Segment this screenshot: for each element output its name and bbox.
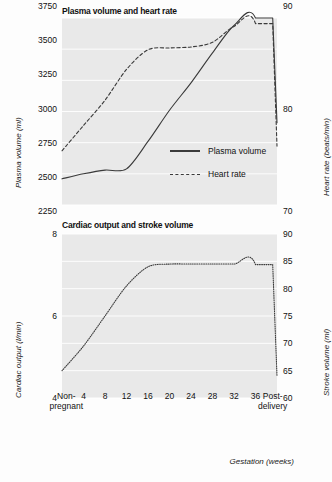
- chart-title-top: Plasma volume and heart rate: [62, 6, 177, 16]
- axis-tick-right-75: 75: [283, 311, 292, 321]
- y-axis-ticks-right-top: 908070: [280, 6, 314, 211]
- axis-tick-left-2500: 2500: [38, 172, 57, 182]
- y-axis-label-heart-rate: Heart rate (beats/min): [322, 118, 331, 196]
- axis-tick-right-70: 70: [283, 338, 292, 348]
- axis-tick-left-2750: 2750: [38, 138, 57, 148]
- y-axis-label-cardiac-output: Cardiac output (l/min): [14, 322, 23, 398]
- chart-title-bottom: Cardiac output and stroke volume: [62, 220, 193, 230]
- axis-tick-right-90: 90: [283, 229, 292, 239]
- axis-tick-left-3750: 3750: [38, 1, 57, 11]
- y-axis-ticks-left-top: 3750350032503000275025002250: [26, 6, 60, 211]
- axis-tick-right-65: 65: [283, 366, 292, 376]
- legend-item-heart-rate: Heart rate: [170, 169, 266, 179]
- legend-label-heart-rate: Heart rate: [208, 169, 246, 179]
- x-axis-tick-32: 32: [229, 392, 238, 402]
- axis-tick-right-80: 80: [283, 284, 292, 294]
- x-axis-tick-12: 12: [122, 392, 131, 402]
- axis-tick-right-90: 90: [283, 1, 292, 11]
- y-axis-ticks-left-bottom: 864: [26, 234, 60, 398]
- x-axis-tick-20: 20: [165, 392, 174, 402]
- panel-plasma-volume-heart-rate: Plasma volume and heart rate Plasma volu…: [0, 6, 332, 211]
- x-axis-tick-4: 4: [81, 392, 86, 402]
- legend-item-plasma-volume: Plasma volume: [170, 146, 266, 156]
- x-axis-tick-24: 24: [186, 392, 195, 402]
- figure-container: Plasma volume and heart rate Plasma volu…: [0, 0, 332, 482]
- panel-cardiac-output-stroke-volume: Cardiac output and stroke volume Cardiac…: [0, 220, 332, 420]
- axis-tick-left-3500: 3500: [38, 35, 57, 45]
- plot-area-bottom: [62, 234, 277, 398]
- y-axis-ticks-right-bottom: 90858075706560: [280, 234, 314, 398]
- x-axis-label-gestation: Gestation (weeks): [230, 457, 294, 466]
- axis-tick-left-3250: 3250: [38, 69, 57, 79]
- plot-svg-bottom: [62, 234, 277, 398]
- axis-tick-right-85: 85: [283, 256, 292, 266]
- legend-key-dashed-line-icon: [170, 174, 200, 175]
- x-axis-tick-8: 8: [103, 392, 108, 402]
- legend-top: Plasma volume Heart rate: [170, 146, 266, 192]
- legend-label-plasma-volume: Plasma volume: [208, 146, 266, 156]
- series-line-heart-rate: [62, 16, 277, 151]
- x-axis-tick-16: 16: [143, 392, 152, 402]
- axis-tick-left-8: 8: [52, 229, 57, 239]
- axis-tick-left-6: 6: [52, 311, 57, 321]
- x-axis-tick-28: 28: [208, 392, 217, 402]
- axis-tick-right-70: 70: [283, 206, 292, 216]
- y-axis-label-stroke-volume: Stroke volume (ml): [322, 329, 331, 396]
- x-axis-ticks: Non-pregnant4812162024283236Post-deliver…: [62, 392, 277, 422]
- legend-key-solid-line-icon: [170, 150, 200, 151]
- y-axis-label-plasma-volume: Plasma volume (ml): [14, 117, 23, 188]
- x-axis-tick-post-delivery: Post-delivery: [250, 392, 296, 411]
- axis-tick-right-80: 80: [283, 104, 292, 114]
- series-line-cardiac-output-stroke-volume: [62, 257, 277, 376]
- axis-tick-left-3000: 3000: [38, 104, 57, 114]
- axis-tick-left-2250: 2250: [38, 206, 57, 216]
